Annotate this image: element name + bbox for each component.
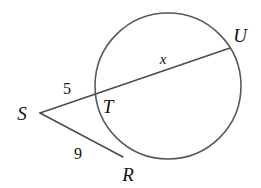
geometry-figure: S T U R 5 x 9 [0,0,261,188]
point-label-u: U [233,25,248,46]
point-label-r: R [121,164,134,185]
measure-label-tu: x [159,51,167,67]
point-label-s: S [17,103,27,124]
point-label-t: T [103,96,115,117]
measure-label-st: 5 [63,80,71,97]
measure-label-sr: 9 [74,145,82,162]
